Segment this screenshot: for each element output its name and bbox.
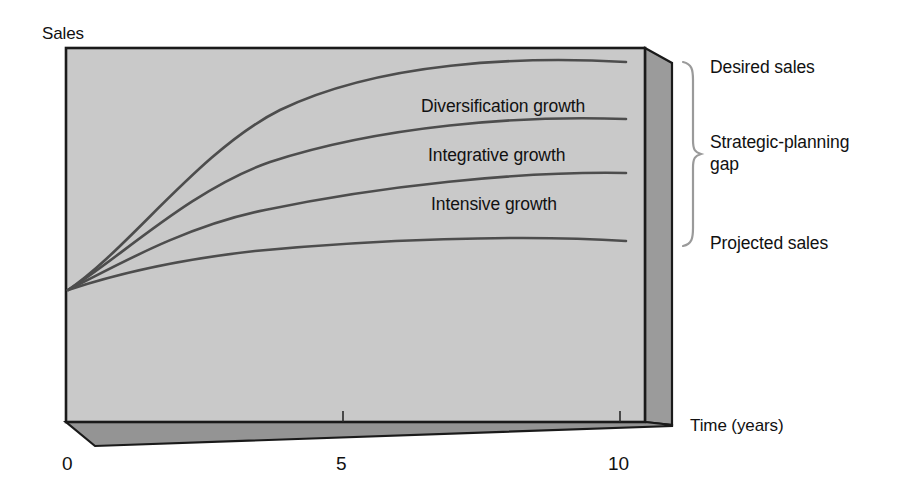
- curve-label-diversification-growth: Diversification growth: [421, 96, 585, 117]
- x-axis-title: Time (years): [690, 416, 784, 436]
- x-tick-label-5: 5: [336, 453, 346, 475]
- curve-label-integrative-growth: Integrative growth: [428, 145, 565, 166]
- panel-base-face: [66, 422, 672, 446]
- annotation-desired-sales: Desired sales: [710, 56, 815, 78]
- curve-label-intensive-growth: Intensive growth: [431, 194, 557, 215]
- panel-side-face: [645, 48, 672, 425]
- y-axis-title: Sales: [42, 24, 84, 44]
- annotation-strategic-planning-gap: Strategic-planning gap: [710, 131, 849, 175]
- x-tick-label-0: 0: [62, 453, 72, 475]
- strategic-planning-gap-brace: [683, 62, 701, 246]
- x-tick-label-10: 10: [608, 453, 629, 475]
- figure-root: Sales Time (years) 0 5 10 Diversificatio…: [0, 0, 915, 492]
- annotation-projected-sales: Projected sales: [710, 232, 828, 254]
